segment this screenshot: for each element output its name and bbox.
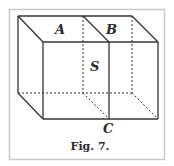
label-a: A bbox=[53, 22, 65, 37]
hidden-edges bbox=[18, 16, 158, 119]
label-c: C bbox=[103, 121, 114, 136]
figure-caption: Fig. 7. bbox=[71, 140, 110, 153]
figure-7-diagram: A B S C Fig. 7. bbox=[0, 0, 174, 166]
label-s: S bbox=[90, 59, 99, 74]
label-b: B bbox=[105, 22, 117, 37]
two-cubes-diagram: A B S C Fig. 7. bbox=[0, 0, 174, 166]
solid-edges bbox=[18, 16, 158, 119]
